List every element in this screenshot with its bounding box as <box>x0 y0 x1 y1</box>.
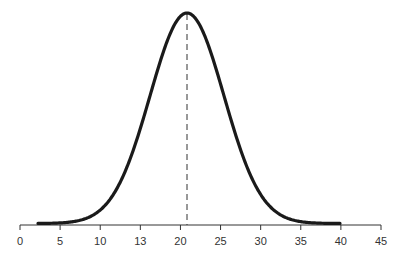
bell-curve-chart: 051013202530354045 <box>0 0 399 261</box>
x-tick-label: 10 <box>94 235 106 247</box>
x-axis-labels: 051013202530354045 <box>17 235 387 247</box>
x-tick-label: 5 <box>57 235 63 247</box>
x-tick-label: 35 <box>295 235 307 247</box>
x-tick-label: 20 <box>174 235 186 247</box>
bell-curve <box>38 13 340 223</box>
x-tick-label: 30 <box>255 235 267 247</box>
x-tick-label: 25 <box>214 235 226 247</box>
x-tick-label: 40 <box>335 235 347 247</box>
x-tick-label: 13 <box>134 235 146 247</box>
x-tick-label: 45 <box>375 235 387 247</box>
x-axis-ticks <box>20 225 381 230</box>
x-tick-label: 0 <box>17 235 23 247</box>
